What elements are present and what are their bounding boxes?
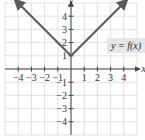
x-axis-label: x <box>141 63 145 74</box>
x-tick-label: −2 <box>39 72 50 83</box>
x-tick-label: −4 <box>13 72 24 83</box>
y-tick-label: −4 <box>56 116 67 127</box>
function-label: y = f(x) <box>107 38 145 53</box>
y-tick-label: −2 <box>56 90 67 101</box>
function-graph: xy −4−3−2−11234−4−3−2−11234 <box>0 0 145 140</box>
y-tick-label: 4 <box>62 11 67 22</box>
y-tick-label: −3 <box>56 103 67 114</box>
x-tick-label: 2 <box>95 72 100 83</box>
vertex-point <box>70 55 72 57</box>
y-axis-label: y <box>68 0 74 6</box>
x-tick-label: 1 <box>82 72 87 83</box>
x-tick-label: −3 <box>26 72 37 83</box>
x-tick-label: 3 <box>108 72 113 83</box>
y-tick-label: 3 <box>62 24 67 35</box>
x-tick-label: 4 <box>121 72 126 83</box>
y-tick-label: −1 <box>56 77 67 88</box>
